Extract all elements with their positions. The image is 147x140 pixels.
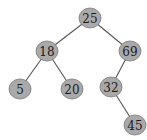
tree-edges xyxy=(20,18,135,125)
tree-node-20: 20 xyxy=(61,79,83,99)
tree-node-25: 25 xyxy=(79,8,101,28)
binary-tree-diagram: 2518695203245 xyxy=(0,0,147,140)
tree-node-45: 45 xyxy=(124,115,146,135)
node-label: 45 xyxy=(127,119,142,133)
tree-node-32: 32 xyxy=(100,77,122,97)
node-label: 25 xyxy=(82,12,97,26)
node-label: 20 xyxy=(64,83,79,97)
tree-node-5: 5 xyxy=(9,79,31,99)
tree-node-18: 18 xyxy=(36,41,58,61)
node-label: 5 xyxy=(16,83,24,97)
node-label: 18 xyxy=(39,45,54,59)
node-label: 69 xyxy=(122,45,137,59)
node-label: 32 xyxy=(103,81,118,95)
tree-node-69: 69 xyxy=(119,41,141,61)
